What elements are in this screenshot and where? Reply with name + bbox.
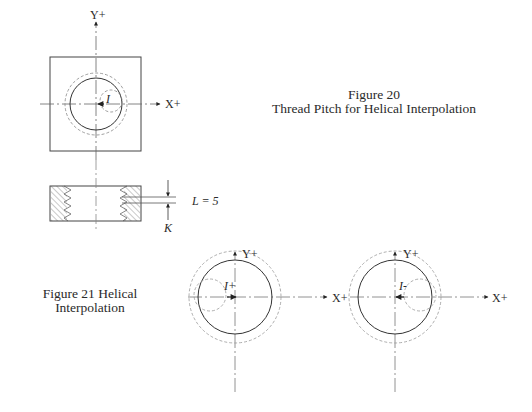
figure20-title: Figure 20 [254, 88, 494, 102]
figure21-title: Figure 21 Helical [0, 287, 180, 301]
tool-path-circle [194, 279, 226, 311]
figure20-caption: Figure 20 Thread Pitch for Helical Inter… [254, 88, 494, 116]
diagram-canvas: Y+ X+ I L = 5 K Y+ X+ I+ [0, 0, 532, 412]
y-axis-label: Y+ [403, 247, 419, 261]
fig21-right-view: Y+ X+ I- [349, 247, 508, 392]
y-axis-label: Y+ [242, 247, 258, 261]
fig21-left-view: Y+ X+ I+ [188, 247, 348, 392]
left-wall-hatch [51, 186, 67, 221]
figure21-caption: Figure 21 Helical Interpolation [0, 287, 180, 315]
tool-path-circle [404, 279, 436, 311]
right-wall-hatch [124, 186, 140, 221]
figure21-subtitle: Interpolation [0, 301, 180, 315]
x-axis-label: X+ [165, 97, 181, 111]
fig20-side-view: L = 5 K [50, 160, 219, 235]
x-axis-label: X+ [332, 291, 348, 305]
figure20-subtitle: Thread Pitch for Helical Interpolation [254, 102, 494, 116]
pitch-label: L = 5 [191, 194, 219, 208]
i-plus-label: I+ [223, 279, 236, 293]
i-minus-label: I- [398, 279, 407, 293]
fig20-front-view: Y+ X+ I [40, 8, 181, 160]
y-axis-label: Y+ [90, 8, 106, 22]
x-axis-label: X+ [492, 291, 508, 305]
k-label: K [163, 221, 173, 235]
tool-path-circle [100, 90, 122, 112]
